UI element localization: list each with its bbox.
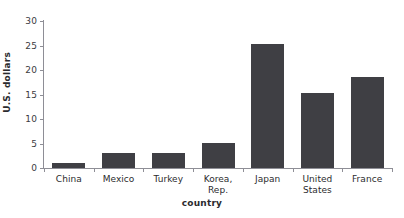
x-axis-category-label: Korea, Rep. [193, 174, 243, 195]
y-axis-tick-mark [40, 119, 44, 120]
x-axis-category-label: Mexico [94, 174, 144, 185]
x-axis-tick-mark [44, 168, 45, 172]
x-axis-tick-mark [293, 168, 294, 172]
bar-chart-figure: · · · ·· · · · U.S. dollars country 0510… [0, 0, 404, 218]
x-axis-category-label: Japan [243, 174, 293, 185]
x-axis-tick-mark [94, 168, 95, 172]
bar [52, 163, 85, 168]
x-axis-tick-mark [392, 168, 393, 172]
y-axis-tick-label: 20 [25, 65, 37, 75]
plot-area: 051015202530 [44, 21, 392, 168]
y-axis-tick-label: 30 [25, 16, 37, 26]
y-axis-tick-mark [40, 46, 44, 47]
bar [351, 77, 384, 168]
bar [102, 153, 135, 168]
y-axis-tick-mark [40, 70, 44, 71]
y-axis-tick-label: 0 [31, 163, 37, 173]
y-axis-title: U.S. dollars [2, 52, 12, 113]
y-axis-tick-mark [40, 144, 44, 145]
y-axis-tick-label: 15 [25, 90, 37, 100]
x-axis-category-label: France [342, 174, 392, 185]
bar [152, 153, 185, 168]
x-axis-tick-mark [193, 168, 194, 172]
x-axis-title: country [0, 198, 404, 208]
x-axis-line [43, 168, 393, 169]
y-axis-tick-mark [40, 21, 44, 22]
x-axis-tick-mark [342, 168, 343, 172]
x-axis-tick-mark [143, 168, 144, 172]
x-axis-category-label: UnitedStates [293, 174, 343, 195]
y-axis-tick-label: 10 [25, 114, 37, 124]
x-axis-category-label: Turkey [143, 174, 193, 185]
x-axis-category-label: China [44, 174, 94, 185]
y-axis-tick-label: 5 [31, 139, 37, 149]
bar [251, 44, 284, 168]
bar [202, 143, 235, 168]
y-axis-tick-mark [40, 95, 44, 96]
clipped-caption-remnant: · · · ·· · · · [0, 0, 404, 5]
y-axis-tick-label: 25 [25, 41, 37, 51]
bar [301, 93, 334, 168]
x-axis-tick-mark [243, 168, 244, 172]
